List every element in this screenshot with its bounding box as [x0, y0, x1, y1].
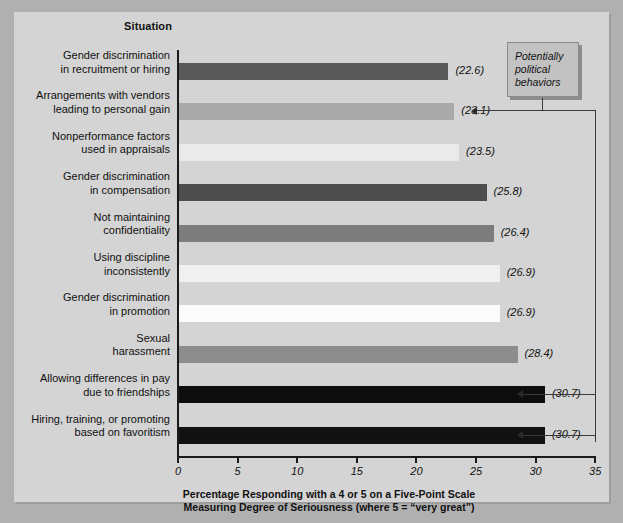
x-tick-mark — [356, 456, 358, 463]
annotation-callout-box: Potentially political behaviors — [507, 42, 579, 97]
bar — [179, 427, 545, 444]
bar-category-label-line1: Gender discrimination — [14, 291, 170, 305]
bar-category-label-line1: Using discipline — [14, 251, 170, 265]
x-tick-mark — [475, 456, 477, 463]
leader-arrowhead — [517, 390, 523, 398]
x-axis-caption: Percentage Responding with a 4 or 5 on a… — [94, 488, 564, 514]
bar-category-label: Gender discriminationin promotion — [14, 291, 170, 318]
bar-category-label-line2: based on favoritism — [14, 426, 170, 440]
bar-value-label: (26.9) — [507, 306, 536, 318]
callout-bus-horizontal — [477, 110, 596, 111]
bar-value-label: (26.9) — [507, 266, 536, 278]
bar-category-label-line1: Gender discrimination — [14, 49, 170, 63]
x-tick-mark — [535, 456, 537, 463]
bar-row: Nonperformance factorsused in appraisals… — [14, 129, 609, 169]
bar-category-label: Not maintainingconfidentiality — [14, 211, 170, 238]
x-tick-mark — [237, 456, 239, 463]
callout-stem — [542, 98, 543, 110]
bar-category-label-line2: due to friendships — [14, 386, 170, 400]
bar-row: Using disciplineinconsistently(26.9) — [14, 250, 609, 290]
bar-category-label-line2: in compensation — [14, 184, 170, 198]
bar-category-label: Nonperformance factorsused in appraisals — [14, 130, 170, 157]
callout-bus-vertical — [595, 110, 596, 442]
bar-value-label: (25.8) — [494, 185, 523, 197]
bar-category-label-line1: Gender discrimination — [14, 170, 170, 184]
bar-category-label-line1: Nonperformance factors — [14, 130, 170, 144]
bar-value-label: (26.4) — [501, 226, 530, 238]
x-axis-caption-line2: Measuring Degree of Seriousness (where 5… — [94, 501, 564, 514]
bar — [179, 265, 500, 282]
x-axis-caption-line1: Percentage Responding with a 4 or 5 on a… — [94, 488, 564, 501]
x-tick-label: 0 — [163, 465, 193, 477]
leader-arrowhead — [471, 107, 477, 115]
bar — [179, 386, 545, 403]
bar — [179, 144, 459, 161]
chart-panel: Situation Gender discriminationin recrui… — [14, 12, 609, 502]
bar-row: Gender discriminationin promotion(26.9) — [14, 290, 609, 330]
callout-line2: political — [515, 63, 578, 76]
x-tick-label: 35 — [580, 465, 610, 477]
bar-value-label: (22.6) — [455, 64, 484, 76]
bar-category-label-line1: Hiring, training, or promoting — [14, 413, 170, 427]
x-tick-label: 25 — [461, 465, 491, 477]
bar-category-label-line2: harassment — [14, 345, 170, 359]
bar-category-label-line2: in promotion — [14, 305, 170, 319]
x-tick-mark — [296, 456, 298, 463]
bar-category-label: Sexualharassment — [14, 332, 170, 359]
x-tick-label: 5 — [223, 465, 253, 477]
bar — [179, 305, 500, 322]
x-tick-label: 10 — [282, 465, 312, 477]
x-tick-label: 15 — [342, 465, 372, 477]
bar-value-label: (23.5) — [466, 145, 495, 157]
callout-line3: behaviors — [515, 76, 578, 89]
x-tick-label: 20 — [401, 465, 431, 477]
bar-row: Gender discriminationin compensation(25.… — [14, 169, 609, 209]
bar-category-label-line2: leading to personal gain — [14, 103, 170, 117]
bar-value-label: (30.7) — [552, 387, 581, 399]
bar-value-label: (30.7) — [552, 428, 581, 440]
x-tick-mark — [177, 456, 179, 463]
bar-row: Sexualharassment(28.4) — [14, 331, 609, 371]
leader-line — [523, 435, 595, 436]
x-tick-label: 30 — [521, 465, 551, 477]
bar-category-label-line1: Arrangements with vendors — [14, 89, 170, 103]
leader-line — [523, 394, 595, 395]
callout-line1: Potentially — [515, 50, 578, 63]
bar-row: Not maintainingconfidentiality(26.4) — [14, 210, 609, 250]
bar-category-label: Using disciplineinconsistently — [14, 251, 170, 278]
y-axis-header: Situation — [14, 20, 172, 32]
bar-category-label-line1: Allowing differences in pay — [14, 372, 170, 386]
x-tick-mark — [594, 456, 596, 463]
bar-category-label-line2: confidentiality — [14, 224, 170, 238]
bar-category-label-line1: Sexual — [14, 332, 170, 346]
bar-value-label: (28.4) — [525, 347, 554, 359]
bar-category-label-line2: in recruitment or hiring — [14, 63, 170, 77]
bar-category-label: Gender discriminationin compensation — [14, 170, 170, 197]
bar-category-label-line2: used in appraisals — [14, 143, 170, 157]
leader-arrowhead — [517, 431, 523, 439]
bar-category-label: Allowing differences in paydue to friend… — [14, 372, 170, 399]
bar — [179, 225, 494, 242]
bar-category-label: Arrangements with vendorsleading to pers… — [14, 89, 170, 116]
bar-category-label: Gender discriminationin recruitment or h… — [14, 49, 170, 76]
bar — [179, 63, 448, 80]
bar — [179, 346, 518, 363]
bar-category-label: Hiring, training, or promotingbased on f… — [14, 413, 170, 440]
bar-category-label-line1: Not maintaining — [14, 211, 170, 225]
bar-category-label-line2: inconsistently — [14, 265, 170, 279]
bar — [179, 103, 454, 120]
x-tick-mark — [415, 456, 417, 463]
x-axis-line — [177, 456, 595, 458]
bar — [179, 184, 487, 201]
